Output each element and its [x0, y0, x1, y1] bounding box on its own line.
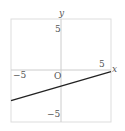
- x-tick-neg5: −5: [13, 70, 27, 80]
- y-axis-label: y: [58, 8, 65, 18]
- y-tick-pos5: 5: [55, 24, 61, 34]
- origin-label: O: [54, 71, 61, 81]
- coordinate-plane: y x O −5 5 5 −5: [0, 0, 125, 131]
- x-axis-label: x: [112, 64, 117, 74]
- x-tick-pos5: 5: [99, 59, 105, 69]
- y-tick-neg5: −5: [47, 109, 61, 119]
